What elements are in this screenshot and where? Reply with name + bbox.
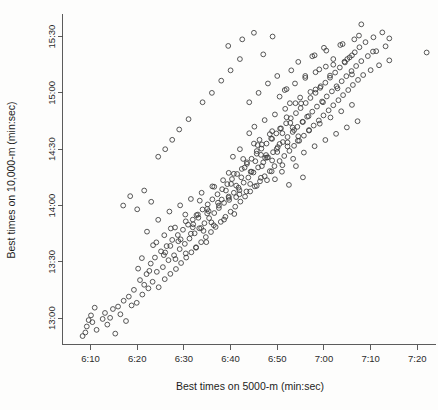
data-point — [154, 269, 159, 274]
data-point — [350, 102, 355, 107]
data-point — [270, 158, 275, 163]
data-point — [377, 63, 382, 68]
data-point — [365, 54, 370, 59]
data-point — [371, 49, 376, 54]
data-point — [90, 320, 95, 325]
data-point — [361, 73, 366, 78]
data-point — [212, 211, 217, 216]
data-point — [252, 30, 257, 35]
data-point — [248, 182, 253, 187]
data-point — [168, 271, 173, 276]
data-point — [294, 164, 299, 169]
data-point — [146, 286, 151, 291]
data-point — [238, 199, 243, 204]
data-point — [303, 101, 308, 106]
data-point — [273, 177, 278, 182]
data-point — [317, 121, 322, 126]
data-point — [323, 64, 328, 69]
data-point — [368, 68, 373, 73]
data-point — [139, 256, 144, 261]
data-point — [111, 307, 116, 312]
data-point — [124, 319, 129, 324]
data-point — [138, 278, 143, 283]
data-point — [280, 169, 285, 174]
data-point — [170, 137, 175, 142]
data-point — [301, 133, 306, 138]
data-point — [149, 199, 154, 204]
data-point — [105, 322, 110, 327]
data-point — [187, 236, 192, 241]
data-point — [331, 62, 336, 67]
data-point — [287, 101, 292, 106]
data-point — [257, 137, 262, 142]
data-point — [219, 78, 224, 83]
data-point — [301, 175, 306, 180]
data-point — [230, 177, 235, 182]
x-tick-label: 6:30 — [175, 353, 194, 364]
data-point — [253, 159, 258, 164]
data-point — [363, 40, 368, 45]
x-tick-label: 7:00 — [315, 353, 334, 364]
data-point — [182, 241, 187, 246]
data-point — [331, 57, 336, 62]
data-point — [200, 100, 205, 105]
data-point — [241, 180, 246, 185]
y-tick-label: 13:00 — [46, 306, 57, 330]
data-point — [92, 305, 97, 310]
data-point — [296, 134, 301, 139]
data-point — [387, 36, 392, 41]
data-point — [186, 117, 191, 122]
data-point — [100, 317, 105, 322]
data-point — [354, 64, 359, 69]
data-point — [331, 103, 336, 108]
data-point — [209, 230, 214, 235]
data-point — [190, 217, 195, 222]
data-point — [280, 163, 285, 168]
data-point — [226, 44, 231, 49]
data-point — [380, 30, 385, 35]
data-point — [156, 154, 161, 159]
y-tick-label: 15:30 — [46, 25, 57, 49]
plot-canvas: 6:106:206:306:406:507:007:107:20 13:0013… — [0, 0, 438, 410]
data-point — [202, 221, 207, 226]
data-point — [273, 112, 278, 117]
data-point — [293, 81, 298, 86]
data-point — [144, 272, 149, 277]
data-point — [183, 212, 188, 217]
data-point — [203, 235, 208, 240]
data-point — [197, 198, 202, 203]
data-point — [256, 90, 261, 95]
data-point — [199, 190, 204, 195]
data-point — [291, 156, 296, 161]
data-point — [221, 178, 226, 183]
x-axis-title: Best times on 5000-m (min:sec) — [176, 380, 324, 392]
data-point — [323, 138, 328, 143]
data-point — [289, 68, 294, 73]
data-point — [113, 331, 118, 336]
data-point — [247, 100, 252, 105]
data-point — [339, 79, 344, 84]
data-point — [140, 292, 145, 297]
data-point — [210, 90, 215, 95]
data-point — [132, 287, 137, 292]
data-point — [135, 207, 140, 212]
data-point — [262, 118, 267, 123]
data-point — [199, 240, 204, 245]
data-point — [204, 240, 209, 245]
data-point — [280, 131, 285, 136]
data-point — [336, 98, 341, 103]
data-point — [153, 255, 158, 260]
data-point — [252, 124, 257, 129]
data-point — [272, 164, 277, 169]
data-point — [94, 327, 99, 332]
data-point — [352, 50, 357, 55]
data-point — [238, 57, 243, 62]
data-point — [265, 178, 270, 183]
data-point — [287, 148, 292, 153]
data-point — [142, 282, 147, 287]
data-point — [298, 95, 303, 100]
data-point — [359, 22, 364, 27]
y-tick-label: 14:30 — [46, 137, 57, 161]
data-point — [239, 175, 244, 180]
data-point — [145, 229, 150, 234]
